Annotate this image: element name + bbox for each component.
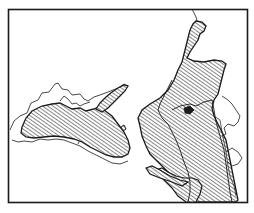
map-canvas (0, 0, 254, 213)
map-figure (0, 0, 254, 213)
